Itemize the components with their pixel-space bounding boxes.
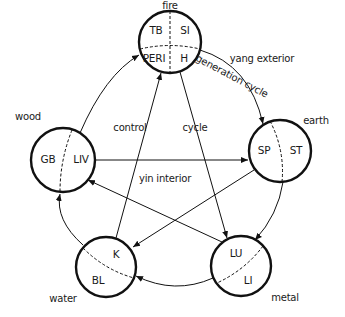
arrow-water-to-wood (59, 194, 83, 245)
label-metal: metal (271, 292, 299, 303)
organ-lu: LU (230, 247, 243, 259)
element-water (76, 237, 136, 297)
label-wood: wood (15, 111, 41, 122)
label-fire: fire (162, 0, 178, 11)
arrow-earth-to-metal (255, 182, 283, 240)
label-earth: earth (303, 115, 329, 126)
organ-li: LI (244, 274, 253, 286)
organ-h: H (180, 52, 188, 64)
organ-st: ST (290, 144, 303, 156)
organ-sp: SP (258, 144, 271, 156)
arrow-water-to-fire (116, 73, 161, 238)
organ-peri: PERI (143, 52, 166, 64)
organ-tb: TB (149, 24, 162, 36)
label-yang-exterior: yang exterior (230, 53, 294, 64)
organ-gb: GB (41, 153, 56, 165)
label-yin-interior: yin interior (139, 173, 191, 184)
arrow-metal-to-water (136, 276, 213, 286)
organ-liv: LIV (73, 153, 89, 165)
organ-si: SI (180, 24, 189, 36)
label-water: water (49, 293, 77, 304)
organ-k: K (113, 248, 120, 260)
label-control: control (113, 122, 146, 133)
label-cycle: cycle (183, 122, 208, 133)
element-metal (211, 236, 271, 296)
control-cycle-arrows (88, 72, 254, 247)
organ-bl: BL (92, 274, 105, 286)
